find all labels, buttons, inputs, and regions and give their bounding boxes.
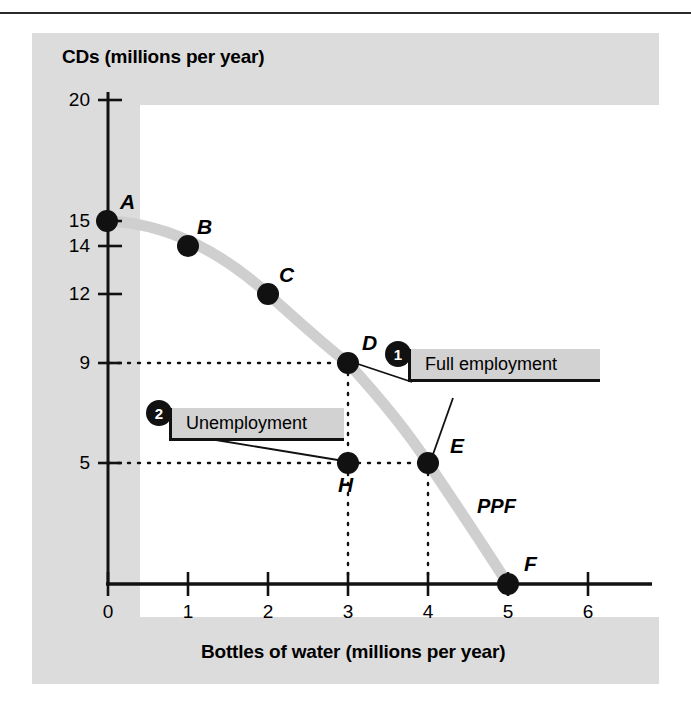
y-tick-label-14: 14	[40, 235, 90, 257]
callout-box-full-employment: Full employment	[408, 349, 600, 382]
x-tick-label-3: 3	[328, 601, 368, 623]
y-axis-title: CDs (millions per year)	[62, 46, 264, 68]
point-h	[337, 452, 359, 474]
axis-lines	[106, 92, 652, 584]
leader-unemployment-to-h	[216, 440, 350, 462]
callout-badge-1: 1	[385, 341, 411, 367]
x-tick-label-2: 2	[248, 601, 288, 623]
point-b	[177, 235, 199, 257]
point-d	[337, 352, 359, 374]
figure-container: CDs (millions per year) Bottles of water…	[0, 0, 691, 716]
callout-box-unemployment: Unemployment	[169, 408, 344, 441]
point-label-d: D	[362, 331, 377, 355]
y-tick-label-9: 9	[40, 352, 90, 374]
x-tick-label-0: 0	[88, 601, 128, 623]
point-f	[497, 573, 519, 595]
callout-badge-2: 2	[146, 400, 172, 426]
ppf-curve-label: PPF	[477, 495, 516, 518]
x-tick-label-4: 4	[408, 601, 448, 623]
y-tick-label-5: 5	[40, 452, 90, 474]
y-axis-ticks	[98, 100, 122, 463]
point-c	[257, 283, 279, 305]
x-tick-label-6: 6	[568, 601, 608, 623]
x-axis-title: Bottles of water (millions per year)	[201, 641, 505, 663]
point-label-a: A	[120, 190, 135, 214]
y-tick-label-20: 20	[40, 89, 90, 111]
point-label-c: C	[279, 263, 294, 287]
point-e	[417, 452, 439, 474]
y-tick-label-15: 15	[40, 210, 90, 232]
x-tick-label-1: 1	[168, 601, 208, 623]
point-label-e: E	[450, 434, 464, 458]
point-a	[96, 210, 118, 232]
y-tick-label-12: 12	[40, 283, 90, 305]
point-label-h: H	[338, 473, 353, 497]
point-label-b: B	[197, 215, 212, 239]
point-label-f: F	[524, 552, 537, 576]
x-tick-label-5: 5	[488, 601, 528, 623]
